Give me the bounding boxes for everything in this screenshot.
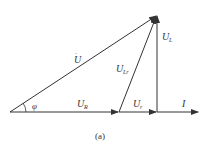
svg-text:φ: φ — [32, 101, 37, 111]
phasor-diagram: U · U R U r U L U Lr I φ (a) — [0, 0, 201, 151]
svg-text:Lr: Lr — [122, 69, 129, 75]
svg-text:·: · — [75, 50, 77, 58]
svg-text:r: r — [140, 104, 143, 110]
caption: (a) — [95, 131, 105, 141]
svg-text:R: R — [83, 104, 88, 110]
svg-text:I: I — [181, 98, 186, 109]
phasor-i: I — [157, 98, 198, 112]
svg-text:L: L — [168, 37, 173, 43]
phasor-u-r-small: U r — [119, 98, 156, 112]
phasor-u-l: U L — [157, 16, 173, 112]
